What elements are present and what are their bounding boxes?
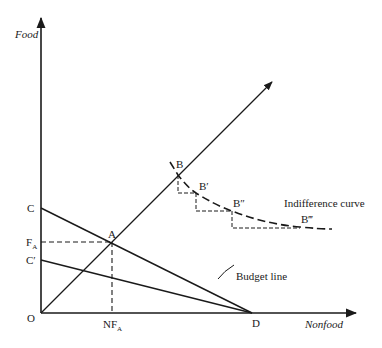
point-D-label: D: [252, 317, 260, 329]
budget-line-CD: [41, 208, 252, 313]
point-B-label: B: [176, 158, 183, 170]
staircase-Bdoubleprime-Btripleprime: [232, 211, 300, 228]
x-axis-label: Nonfood: [304, 318, 343, 330]
point-NFA-label: NFA: [103, 318, 122, 333]
origin-label: O: [27, 312, 35, 324]
point-C-label: C: [27, 202, 34, 214]
budget-line-label: Budget line: [236, 270, 287, 282]
point-FA-label: FA: [26, 236, 37, 251]
point-B-triple-prime-label: B‴: [301, 213, 313, 225]
y-axis-label: Food: [14, 28, 39, 40]
point-A-label: A: [108, 228, 116, 240]
point-C-prime-label: C′: [26, 254, 36, 266]
indifference-curve-label: Indifference curve: [284, 197, 365, 209]
indifference-diagram: Food Nonfood O C C′ FA NFA A D B B′ B″ B…: [0, 0, 382, 348]
budget-line-pointer: [218, 265, 234, 279]
point-B-prime-label: B′: [199, 180, 209, 192]
budget-line-C-prime-D: [41, 260, 252, 313]
point-B-double-prime-label: B″: [233, 197, 245, 209]
